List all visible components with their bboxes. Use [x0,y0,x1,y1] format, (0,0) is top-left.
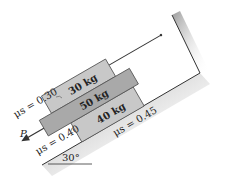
force-label: P [19,128,27,139]
cable [109,35,161,65]
incline-block-diagram: 30° 40 kg 30 kg 50 kg μs = 0.45 P [0,0,226,185]
wall [172,11,208,73]
angle-label: 30° [62,152,80,163]
